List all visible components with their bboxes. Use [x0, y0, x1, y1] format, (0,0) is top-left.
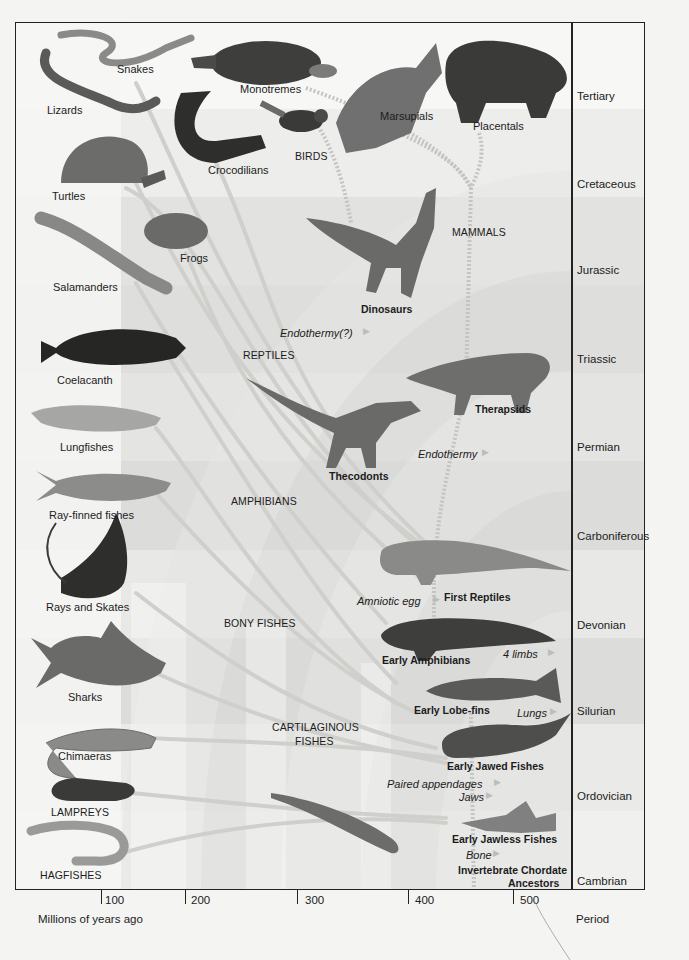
jawless-fish-illustration [461, 801, 556, 833]
kangaroo-illustration [336, 43, 442, 153]
period-label-carboniferous: Carboniferous [577, 530, 649, 542]
innovation-label-lungs: Lungs [517, 707, 547, 719]
axis-tick-500 [513, 890, 514, 904]
living-group-label-frogs: Frogs [180, 252, 208, 264]
axis-tick-label-200: 200 [191, 894, 210, 906]
frog-illustration [144, 213, 208, 249]
bear-illustration [445, 41, 567, 123]
period-label-jurassic: Jurassic [577, 264, 619, 276]
clade-label-fishes: FISHES [295, 736, 334, 748]
ray-illustration [47, 513, 127, 598]
innovation-label-paired-appendages: Paired appendages [387, 778, 482, 790]
paper-crease [530, 902, 590, 960]
innovation-label-amniotic-egg: Amniotic egg [357, 595, 421, 607]
innovation-arrow-icon: ▶ [482, 448, 489, 458]
innovation-label-bone: Bone [466, 849, 492, 861]
coelacanth-illustration [41, 329, 186, 365]
innovation-arrow-icon: ▶ [486, 791, 493, 801]
period-label-cretaceous: Cretaceous [577, 178, 636, 190]
living-group-label-crocodilians: Crocodilians [208, 164, 269, 176]
ancestor-label-ancestors: Ancestors [508, 878, 559, 890]
innovation-label-jaws: Jaws [459, 791, 484, 803]
living-group-label-snakes: Snakes [117, 63, 154, 75]
clade-label-cartilaginous: CARTILAGINOUS [272, 722, 359, 734]
ancestor-label-invertebrate-chordate: Invertebrate Chordate [458, 865, 567, 877]
thecodont-illustration [246, 378, 421, 468]
ancestor-label-therapsids: Therapsids [475, 404, 531, 416]
ancestor-label-early-lobe-fins: Early Lobe-fins [414, 705, 490, 717]
living-group-label-salamanders: Salamanders [53, 281, 118, 293]
innovation-label-endothermy: Endothermy [418, 448, 477, 460]
period-label-tertiary: Tertiary [577, 90, 615, 102]
innovation-arrow-icon: ▶ [433, 595, 440, 605]
ray-finned-fish-illustration [36, 471, 171, 501]
first-reptile-illustration [380, 540, 571, 585]
innovation-arrow-icon: ▶ [548, 648, 555, 658]
innovation-label-4-limbs: 4 limbs [503, 648, 538, 660]
living-group-label-lizards: Lizards [47, 104, 82, 116]
bird-illustration [261, 103, 328, 132]
ancestor-label-dinosaurs: Dinosaurs [361, 304, 412, 316]
living-group-label-ray-finned-fishes: Ray-finned fishes [49, 509, 134, 521]
innovation-arrow-icon: ▶ [494, 778, 501, 788]
clade-label-mammals: MAMMALS [452, 227, 506, 239]
innovation-arrow-icon: ▶ [550, 707, 557, 717]
early-chordate-illustration [271, 793, 399, 853]
ancestor-label-thecodonts: Thecodonts [329, 471, 389, 483]
axis-tick-200 [185, 890, 186, 904]
axis-tick-100 [101, 890, 102, 904]
period-label-permian: Permian [577, 441, 620, 453]
living-group-label-hagfishes: HAGFISHES [40, 870, 102, 882]
ancestor-label-first-reptiles: First Reptiles [444, 592, 511, 604]
axis-tick-300 [297, 890, 298, 904]
clade-label-bony-fishes: BONY FISHES [224, 618, 296, 630]
snake-illustration [61, 33, 191, 63]
living-group-label-placentals: Placentals [473, 120, 524, 132]
living-group-label-marsupials: Marsupials [380, 110, 433, 122]
ancestor-label-early-amphibians: Early Amphibians [382, 655, 470, 667]
living-group-label-rays-and-skates: Rays and Skates [46, 601, 129, 613]
period-label-silurian: Silurian [577, 705, 615, 717]
living-group-label-chimaeras: Chimaeras [58, 750, 111, 762]
period-label-ordovician: Ordovician [577, 790, 632, 802]
dinosaur-illustration [306, 188, 436, 298]
living-group-label-monotremes: Monotremes [240, 83, 301, 95]
living-group-label-lampreys: LAMPREYS [51, 807, 109, 819]
axis-tick-label-300: 300 [305, 894, 324, 906]
crocodile-illustration [174, 91, 266, 163]
shark-illustration [31, 621, 166, 688]
innovation-label-endothermy: Endothermy(?) [280, 327, 353, 339]
period-label-devonian: Devonian [577, 619, 626, 631]
innovation-arrow-icon: ▶ [493, 849, 500, 859]
ancestor-label-early-jawless-fishes: Early Jawless Fishes [452, 834, 557, 846]
axis-tick-label-400: 400 [415, 894, 434, 906]
living-group-label-birds: BIRDS [295, 151, 328, 163]
period-column-divider [571, 23, 573, 889]
axis-tick-400 [408, 890, 409, 904]
hagfish-illustration [31, 825, 124, 861]
platypus-illustration [191, 41, 337, 85]
lungfish-illustration [31, 405, 161, 431]
period-label-triassic: Triassic [577, 353, 616, 365]
living-group-label-sharks: Sharks [68, 691, 102, 703]
living-group-label-lungfishes: Lungfishes [60, 441, 113, 453]
living-group-label-turtles: Turtles [52, 190, 85, 202]
clade-label-reptiles: REPTILES [243, 350, 295, 362]
clade-label-amphibians: AMPHIBIANS [231, 496, 297, 508]
ancestor-label-early-jawed-fishes: Early Jawed Fishes [447, 761, 544, 773]
axis-tick-label-100: 100 [105, 894, 124, 906]
jawed-fish-illustration [442, 713, 571, 758]
lamprey-illustration [52, 778, 135, 801]
period-label-cambrian: Cambrian [577, 875, 627, 887]
turtle-illustration [61, 136, 166, 188]
innovation-arrow-icon: ▶ [363, 327, 370, 337]
lobe-fin-illustration [426, 668, 561, 703]
living-group-label-coelacanth: Coelacanth [57, 374, 113, 386]
axis-title: Millions of years ago [38, 913, 143, 925]
